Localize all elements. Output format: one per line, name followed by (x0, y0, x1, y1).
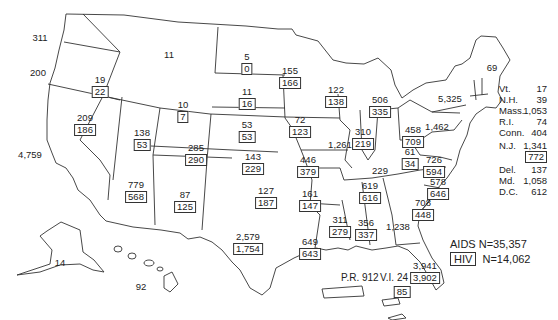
state-label-pa: 1,462 (425, 122, 449, 132)
us-map-outline (0, 0, 558, 320)
state-hiv-nc: 646 (427, 188, 449, 200)
state-hiv-id: 22 (92, 86, 109, 98)
state-label-fl: 3,941 (413, 261, 437, 271)
state-hiv-tx: 1,754 (233, 243, 263, 255)
state-label-nc: 578 (430, 177, 446, 187)
state-label-tn: 619 (362, 181, 378, 191)
ne-row-hiv: 772 (499, 151, 547, 163)
state-label-ut: 138 (134, 128, 150, 138)
state-label-mt: 11 (164, 50, 174, 60)
state-label-la: 649 (302, 237, 318, 247)
state-hiv-ks: 229 (242, 163, 264, 175)
state-label-wy: 10 (178, 100, 189, 110)
state-label-in: 310 (355, 127, 371, 137)
ne-row: D.C.612 (499, 186, 547, 198)
state-hiv-sc: 448 (412, 209, 434, 221)
state-label-va: 726 (426, 155, 442, 165)
state-label-al: 356 (358, 218, 374, 228)
state-label-az: 779 (128, 180, 144, 190)
state-label-ca: 4,759 (18, 150, 42, 160)
state-label-oh: 458 (405, 125, 421, 135)
territory-vi-hiv: 85 (394, 286, 411, 298)
state-hiv-tn: 616 (359, 192, 381, 204)
state-label-ga: 1,238 (386, 222, 410, 232)
state-label-mo: 446 (300, 155, 316, 165)
state-label-nm: 87 (180, 190, 191, 200)
state-hiv-wy: 7 (177, 111, 188, 123)
state-label-sd: 11 (242, 87, 252, 97)
state-label-ne: 53 (242, 120, 253, 130)
state-label-ny: 5,325 (438, 94, 462, 104)
state-label-mi: 506 (372, 95, 388, 105)
state-label-ar: 161 (302, 189, 318, 199)
ne-row: Conn.404 (499, 127, 547, 139)
state-hiv-va: 594 (423, 166, 445, 178)
state-label-mn: 155 (282, 66, 298, 76)
state-hiv-la: 643 (299, 248, 321, 260)
state-label-hi: 92 (136, 282, 147, 292)
state-hiv-in: 219 (352, 138, 374, 150)
state-hiv-sd: 16 (239, 98, 256, 110)
state-label-wa: 311 (32, 33, 47, 43)
state-hiv-co: 290 (185, 154, 207, 166)
state-label-nd: 5 (244, 52, 249, 62)
state-label-ks: 143 (245, 152, 261, 162)
state-label-id: 19 (95, 75, 106, 85)
state-hiv-ok: 187 (255, 197, 277, 209)
state-label-ia: 72 (295, 115, 306, 125)
legend: AIDS N=35,357 HIV N=14,062 (450, 238, 530, 265)
state-hiv-nv: 186 (74, 124, 96, 136)
state-hiv-fl: 3,902 (410, 272, 440, 284)
state-label-ky: 229 (372, 166, 388, 176)
state-hiv-nd: 0 (241, 63, 252, 75)
state-hiv-ms: 279 (329, 226, 351, 238)
state-hiv-ut: 53 (134, 139, 151, 151)
state-hiv-ar: 147 (299, 200, 321, 212)
state-label-me: 69 (487, 63, 498, 73)
state-label-il: 1,261 (328, 140, 352, 150)
territory-pr: P.R. 912 (341, 273, 379, 283)
state-hiv-ne: 53 (239, 131, 256, 143)
state-hiv-nm: 125 (174, 201, 196, 213)
state-label-wi: 122 (328, 85, 344, 95)
legend-hiv: HIV N=14,062 (450, 253, 530, 265)
state-label-nv: 209 (77, 113, 93, 123)
state-hiv-mo: 379 (297, 166, 319, 178)
state-hiv-wi: 138 (325, 96, 347, 108)
state-hiv-mn: 166 (279, 77, 301, 89)
state-hiv-az: 568 (125, 191, 147, 203)
state-hiv-al: 337 (355, 229, 377, 241)
state-hiv-ia: 123 (289, 126, 311, 138)
state-label-ms: 311 (332, 215, 347, 225)
territory-vi: V.I. 24 (380, 273, 408, 283)
state-label-or: 200 (30, 68, 46, 78)
state-label-ak: 14 (55, 258, 66, 268)
state-hiv-mi: 335 (369, 106, 391, 118)
legend-aids: AIDS N=35,357 (450, 238, 530, 250)
state-hiv-wv: 34 (402, 158, 419, 170)
state-label-co: 285 (188, 143, 204, 153)
state-label-tx: 2,579 (236, 232, 260, 242)
state-label-ok: 127 (258, 186, 274, 196)
state-label-wv: 61 (405, 147, 416, 157)
